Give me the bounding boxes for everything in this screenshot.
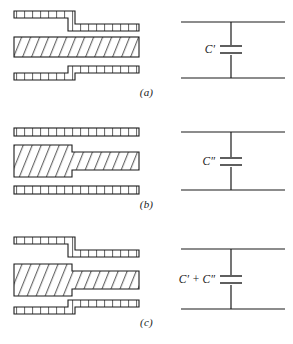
panel-b: C″ (b) — [0, 112, 293, 212]
centre-conductor — [14, 37, 139, 57]
figure-container: C′ (a) — [0, 0, 293, 344]
bottom-ground-plane — [14, 186, 139, 194]
panel-a-caption: (a) — [0, 86, 293, 98]
bottom-ground-plane — [14, 66, 139, 80]
centre-conductor-body — [14, 37, 139, 57]
top-ground-plane-body — [14, 237, 139, 257]
centre-conductor — [14, 264, 139, 296]
bottom-ground-plane — [14, 300, 139, 314]
equivalent-circuit-c: C′ + C″ — [179, 249, 285, 309]
panel-a-svg: C′ — [0, 0, 293, 100]
panel-c-caption: (c) — [0, 316, 293, 328]
centre-conductor — [14, 145, 139, 177]
top-ground-plane-body — [14, 128, 139, 136]
centre-conductor-body — [14, 145, 139, 177]
equivalent-circuit-a: C′ — [181, 22, 285, 78]
bottom-ground-plane-body — [14, 300, 139, 314]
capacitance-label: C′ — [205, 43, 216, 55]
top-ground-plane — [14, 237, 139, 257]
top-ground-plane — [14, 128, 139, 136]
panel-b-caption: (b) — [0, 198, 293, 210]
panel-a: C′ (a) — [0, 0, 293, 100]
panel-c: C′ + C″ (c) — [0, 228, 293, 344]
bottom-ground-plane-body — [14, 66, 139, 80]
capacitance-label: C″ — [203, 155, 216, 167]
equivalent-circuit-b: C″ — [181, 132, 285, 190]
top-ground-plane-body — [14, 11, 139, 31]
capacitance-label: C′ + C″ — [179, 273, 215, 285]
panel-b-svg: C″ — [0, 112, 293, 212]
bottom-ground-plane-body — [14, 186, 139, 194]
top-ground-plane — [14, 11, 139, 31]
centre-conductor-body — [14, 264, 139, 296]
